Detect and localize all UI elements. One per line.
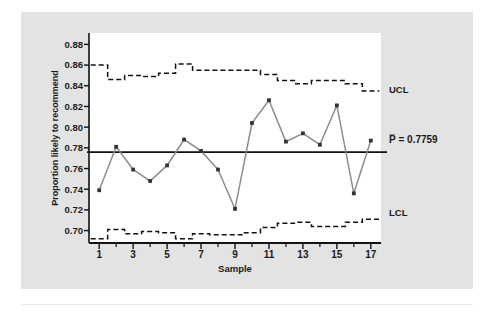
ucl-step-line [91, 64, 380, 91]
y-tick-label: 0.74 [65, 184, 84, 195]
x-tick-label: 5 [164, 249, 170, 260]
x-tick-label: 11 [264, 249, 275, 260]
y-tick-label: 0.86 [65, 59, 84, 70]
x-tick-label: 15 [331, 249, 343, 260]
data-point-marker [148, 179, 152, 183]
data-point-marker [216, 168, 220, 172]
x-axis-title: Sample [218, 263, 252, 274]
y-tick-label: 0.78 [65, 142, 84, 153]
data-point-marker [131, 168, 135, 172]
data-point-marker [250, 121, 254, 125]
y-tick-label: 0.88 [65, 39, 84, 50]
data-point-marker [318, 143, 322, 147]
x-tick-labels: 1357911131517 [96, 249, 376, 260]
center-line-annotation-label: P̅ = 0.7759 [389, 134, 438, 145]
x-tick-label: 7 [198, 249, 204, 260]
y-axis-title: Proportion likely to recommend [50, 70, 60, 206]
y-tick-label: 0.84 [65, 80, 84, 91]
data-point-marker [165, 164, 169, 168]
x-tick-label: 1 [96, 249, 102, 260]
data-point-markers [97, 98, 372, 210]
data-point-marker [267, 98, 271, 102]
y-tick-label: 0.72 [65, 204, 84, 215]
data-point-marker [301, 131, 305, 135]
ucl-annotation-label: UCL [389, 84, 409, 95]
data-point-marker [352, 191, 356, 195]
data-point-marker [369, 139, 373, 143]
x-tick-label: 13 [297, 249, 309, 260]
data-point-marker [199, 149, 203, 153]
data-point-marker [335, 104, 339, 108]
control-chart-figure: 0.700.720.740.760.780.800.820.840.860.88… [0, 0, 494, 317]
y-tick-labels: 0.700.720.740.760.780.800.820.840.860.88 [65, 39, 84, 236]
y-tick-label: 0.82 [65, 101, 84, 112]
data-point-marker [97, 188, 101, 192]
data-point-marker [284, 140, 288, 144]
data-series-line [99, 100, 371, 209]
y-tick-label: 0.70 [65, 225, 84, 236]
p-chart-svg: 0.700.720.740.760.780.800.820.840.860.88… [0, 0, 494, 317]
data-point-marker [182, 138, 186, 142]
x-tick-label: 3 [130, 249, 136, 260]
lcl-step-line [91, 219, 380, 239]
y-tick-label: 0.80 [65, 122, 84, 133]
x-tick-label: 9 [232, 249, 238, 260]
x-tick-label: 17 [365, 249, 377, 260]
data-point-marker [233, 207, 237, 211]
y-tick-label: 0.76 [65, 163, 84, 174]
data-point-marker [114, 145, 118, 149]
lcl-annotation-label: LCL [389, 207, 408, 218]
